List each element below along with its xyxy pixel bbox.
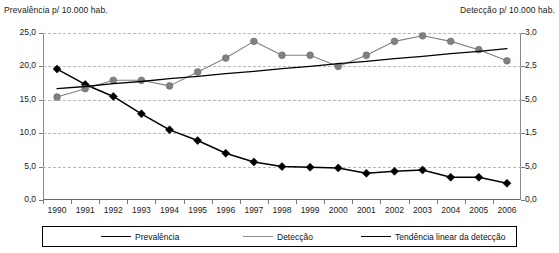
- y-axis-tick-mark: [39, 100, 43, 101]
- y2-axis-tick-mark: [521, 167, 525, 168]
- y-axis-tick-label: 15,0: [2, 94, 36, 104]
- x-axis-tick-mark: [99, 200, 100, 204]
- x-axis-tick-label: 2006: [490, 205, 524, 215]
- legend-item-tendencia: Tendência linear da detecção: [361, 227, 506, 246]
- y2-axis-tick-mark: [521, 100, 525, 101]
- x-axis-tick-mark: [296, 200, 297, 204]
- x-axis-tick-mark: [465, 200, 466, 204]
- diamond-black-icon: [101, 232, 131, 242]
- gridline: [43, 133, 521, 134]
- x-axis-tick-mark: [71, 200, 72, 204]
- y2-axis-tick-label: 3,0: [525, 27, 557, 37]
- x-axis-tick-mark: [127, 200, 128, 204]
- x-axis-tick-mark: [240, 200, 241, 204]
- legend-label-deteccao: Detecção: [277, 232, 313, 242]
- circle-gray-icon: [243, 232, 273, 242]
- y-axis-tick-mark: [39, 66, 43, 67]
- chart-legend: Prevalência Detecção Tendência linear da…: [42, 226, 517, 247]
- gridline: [43, 167, 521, 168]
- gridline: [43, 100, 521, 101]
- y2-axis-tick-label: 0,0: [525, 194, 557, 204]
- legend-item-prevalencia: Prevalência: [101, 227, 179, 246]
- y-axis-tick-label: 20,0: [2, 60, 36, 70]
- left-axis-title: Prevalência p/ 10.000 hab.: [4, 5, 108, 15]
- y2-axis-tick-label: 2,5: [525, 60, 557, 70]
- x-axis-tick-mark: [155, 200, 156, 204]
- x-axis-tick-mark: [43, 200, 44, 204]
- y2-axis-tick-mark: [521, 133, 525, 134]
- gridline: [43, 33, 521, 34]
- y2-axis-tick-mark: [521, 200, 525, 201]
- y2-axis-tick-label: 1,5: [525, 127, 557, 137]
- legend-label-prevalencia: Prevalência: [135, 232, 179, 242]
- y-axis-tick-mark: [39, 133, 43, 134]
- line-icon: [361, 232, 391, 242]
- y2-axis-tick-mark: [521, 66, 525, 67]
- y-axis-tick-label: 0,0: [2, 194, 36, 204]
- x-axis-tick-mark: [324, 200, 325, 204]
- y-axis-tick-mark: [39, 33, 43, 34]
- plot-frame: [43, 33, 521, 200]
- x-axis-tick-mark: [409, 200, 410, 204]
- right-axis-title: Detecção p/ 10.000 hab.: [460, 5, 555, 15]
- y-axis-tick-label: 25,0: [2, 27, 36, 37]
- plot-area: [43, 33, 521, 200]
- x-axis-tick-mark: [493, 200, 494, 204]
- x-axis-tick-mark: [437, 200, 438, 204]
- x-axis-tick-mark: [184, 200, 185, 204]
- y2-axis-tick-label: 5,0: [525, 94, 557, 104]
- y2-axis-tick-mark: [521, 33, 525, 34]
- x-axis-tick-mark: [212, 200, 213, 204]
- x-axis-tick-mark: [380, 200, 381, 204]
- x-axis-tick-mark: [268, 200, 269, 204]
- y2-axis-tick-label: 5,0: [525, 161, 557, 171]
- y-axis-tick-mark: [39, 167, 43, 168]
- chart-container: Prevalência p/ 10.000 hab. Detecção p/ 1…: [0, 0, 559, 253]
- y-axis-tick-label: 5,0: [2, 161, 36, 171]
- y-axis-tick-label: 10,0: [2, 127, 36, 137]
- legend-item-deteccao: Detecção: [243, 227, 313, 246]
- x-axis-tick-mark: [352, 200, 353, 204]
- legend-label-tendencia: Tendência linear da detecção: [395, 232, 506, 242]
- gridline: [43, 66, 521, 67]
